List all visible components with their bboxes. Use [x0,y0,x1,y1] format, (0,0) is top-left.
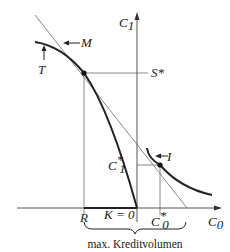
fisher-separation-diagram: M T I C1 C0 S* C*1 C*0 R K = 0 max. Kred… [0,0,230,252]
i-arrow-icon [155,154,161,159]
diagram-canvas: M T I C1 C0 S* C*1 C*0 R K = 0 max. Kred… [0,0,230,252]
label-s-star: S* [151,65,165,80]
label-k-zero: K = 0 [103,207,135,222]
tangency-point-consumption [157,162,162,167]
label-c0-axis: C0 [208,214,224,232]
credit-volume-brace [84,222,186,234]
label-i: I [166,149,172,164]
label-c1-axis: C1 [119,15,134,33]
indifference-curve [147,148,212,195]
c0-axis-arrow-icon [214,206,222,211]
label-c0-star: C*0 [151,208,169,232]
label-t: T [38,62,46,77]
tangency-point-production [81,70,86,75]
label-m: M [80,35,93,50]
t-arrow-icon [42,45,47,51]
label-c1-star: C*1 [108,152,126,176]
label-r: R [79,210,88,225]
m-arrow-icon [63,41,69,46]
market-line [35,15,187,208]
c1-axis-arrow-icon [135,12,140,20]
label-max-kreditvolumen: max. Kreditvolumen [87,238,182,250]
